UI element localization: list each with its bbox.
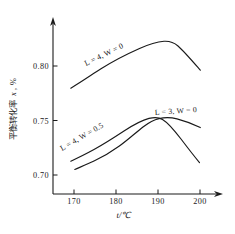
- y-ticks-group: 0.80 0.75 0.70: [33, 62, 57, 180]
- y-axis-label: 平衡转化率 x , %: [8, 78, 18, 140]
- x-axis-label: t/℃: [117, 210, 133, 220]
- x-ticks-group: 170 180 190 200: [67, 190, 206, 207]
- curve-label-series-1: L = 3, W = 0: [155, 105, 198, 117]
- x-tick-label: 200: [193, 197, 206, 206]
- y-tick-label: 0.80: [33, 62, 49, 71]
- curve-label-text: L = 3, W = 0: [155, 105, 198, 117]
- curve-label-series-2: L = 4, W = 0.5: [59, 121, 106, 153]
- chart-figure: 0.80 0.75 0.70 170 180 190 200 t/℃ 平衡转化率…: [0, 0, 235, 234]
- x-tick-label: 170: [67, 197, 80, 206]
- x-tick-label: 190: [151, 197, 164, 206]
- axes-group: [50, 17, 223, 197]
- curve-series-2: [71, 117, 200, 162]
- y-axis-label-symbol: x: [9, 92, 18, 97]
- y-tick-label: 0.70: [33, 171, 49, 180]
- curve-label-text: L = 4, W = 0: [83, 41, 125, 68]
- curve-label-series-0: L = 4, W = 0: [83, 41, 125, 68]
- curve-label-text: L = 4, W = 0.5: [59, 121, 106, 153]
- y-axis-label-cn: 平衡转化率: [8, 100, 18, 140]
- x-tick-label: 180: [109, 197, 122, 206]
- y-tick-label: 0.75: [33, 117, 49, 126]
- y-axis-label-unit: , %: [9, 78, 18, 90]
